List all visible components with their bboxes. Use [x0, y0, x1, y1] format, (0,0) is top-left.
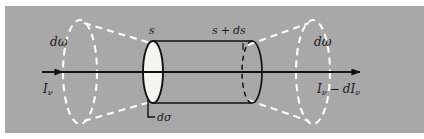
- path-end-plus: +: [218, 24, 233, 37]
- outgoing-intensity-differential-subscript: ν: [355, 87, 360, 97]
- incoming-intensity-subscript: ν: [48, 87, 53, 97]
- label-outgoing-intensity: Iν−dIν: [317, 83, 360, 96]
- left-cone-upper-generatrix: [84, 23, 157, 45]
- label-solid-angle-left: dω: [50, 36, 67, 48]
- path-end-ds: ds: [233, 24, 246, 37]
- outgoing-intensity-differential: dI: [343, 82, 355, 96]
- label-path-start: s: [149, 25, 155, 36]
- path-end-s: s: [212, 24, 218, 37]
- label-area-element: dσ: [157, 112, 172, 123]
- label-solid-angle-right: dω: [314, 36, 331, 48]
- figure-root: dω dω Iν Iν−dIν s s+ds dσ: [0, 0, 424, 139]
- diagram-canvas: [0, 0, 424, 139]
- left-cone-lower-generatrix: [84, 100, 157, 121]
- outgoing-intensity-subscript: ν: [322, 87, 327, 97]
- label-path-end: s+ds: [212, 25, 246, 36]
- outgoing-intensity-minus: −: [327, 82, 343, 96]
- label-incoming-intensity: Iν: [43, 83, 53, 96]
